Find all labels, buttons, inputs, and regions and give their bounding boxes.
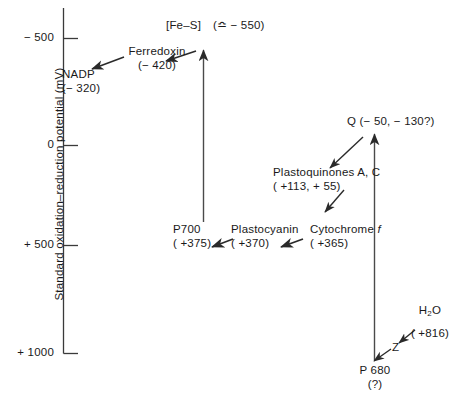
component-label-q: Q (− 50, − 130?) (347, 114, 435, 128)
ferredoxin-value: (− 420) (114, 58, 200, 72)
diagram-graphics-layer (0, 0, 464, 398)
component-label-ferredoxin: Ferredoxin (− 420) (114, 44, 200, 72)
arrow-q-to-plastoquinones (330, 137, 363, 168)
component-label-nadp: NADP (− 320) (62, 67, 100, 95)
fes-value: (≏ − 550) (213, 19, 265, 31)
y-axis-tick-label-zero: 0 (0, 138, 54, 150)
cytochrome-italic-f: f (377, 223, 380, 235)
component-label-p680: P 680 (?) (345, 363, 405, 391)
component-label-plastocyanin: Plastocyanin ( +370) (231, 222, 299, 250)
plastoquinones-value: ( +113, + 55) (273, 179, 380, 193)
y-axis-tick-label-plus1000: + 1000 (0, 346, 54, 358)
p700-value: ( +375) (173, 236, 211, 250)
water-formula: H2O (400, 303, 460, 321)
component-label-plastoquinones: Plastoquinones A, C ( +113, + 55) (273, 165, 380, 193)
plastocyanin-value: ( +370) (231, 236, 299, 250)
p680-name: P 680 (345, 363, 405, 377)
arrow-z-to-p680 (374, 349, 391, 361)
fes-name: [Fe–S] (166, 19, 201, 31)
plastocyanin-name: Plastocyanin (231, 222, 299, 236)
nadp-value: (− 320) (62, 81, 100, 95)
component-label-p700: P700 ( +375) (173, 222, 211, 250)
cytochrome-value: ( +365) (310, 236, 381, 250)
nadp-name: NADP (62, 67, 100, 81)
cytochrome-name-row: Cytochrome f (310, 222, 381, 236)
water-value: ( +816) (400, 326, 460, 340)
plastoquinones-name: Plastoquinones A, C (273, 165, 380, 179)
component-label-cytochrome-f: Cytochrome f ( +365) (310, 222, 381, 250)
water-name2: O (432, 304, 441, 316)
component-label-fes: [Fe–S] (≏ − 550) (166, 18, 265, 32)
component-label-z: Z (392, 340, 399, 354)
ferredoxin-name: Ferredoxin (114, 44, 200, 58)
y-axis-tick-label-plus500: + 500 (0, 238, 54, 250)
p680-value: (?) (345, 377, 405, 391)
component-label-water: H2O ( +816) (400, 303, 460, 340)
z-scheme-diagram: Standard oxidation–reduction potential (… (0, 0, 464, 398)
arrow-plastocyanin-to-p700 (212, 239, 233, 247)
cytochrome-name: Cytochrome (310, 223, 374, 235)
y-axis-tick-label-minus500: − 500 (0, 31, 54, 43)
p700-name: P700 (173, 222, 211, 236)
arrow-plastoquinones-to-cytochrome (325, 190, 344, 212)
